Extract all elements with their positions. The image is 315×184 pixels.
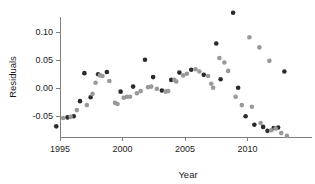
data-point bbox=[166, 89, 171, 94]
data-point bbox=[282, 69, 287, 74]
y-tick-label: 0.00 bbox=[35, 83, 53, 93]
x-tick-label: 2005 bbox=[175, 144, 195, 154]
data-points-layer bbox=[54, 10, 289, 138]
data-point bbox=[149, 84, 154, 89]
data-point bbox=[252, 122, 257, 127]
data-point bbox=[75, 108, 80, 113]
data-point bbox=[54, 124, 59, 129]
data-point bbox=[261, 125, 266, 130]
data-point bbox=[155, 87, 160, 92]
data-point bbox=[118, 89, 123, 94]
data-point bbox=[197, 69, 202, 74]
data-point bbox=[257, 45, 262, 50]
data-point bbox=[143, 57, 148, 62]
series-dark-points bbox=[54, 10, 287, 133]
data-point bbox=[226, 69, 231, 74]
data-point bbox=[267, 59, 272, 64]
data-point bbox=[214, 41, 219, 46]
data-point bbox=[93, 80, 98, 85]
data-point bbox=[247, 35, 252, 40]
data-point bbox=[236, 85, 241, 90]
data-point bbox=[138, 89, 143, 94]
y-tick-label: 0.05 bbox=[35, 55, 53, 65]
data-point bbox=[61, 116, 66, 121]
data-point bbox=[105, 70, 110, 75]
data-point bbox=[189, 68, 194, 73]
y-tick-group: -0.050.000.050.10 bbox=[32, 27, 60, 121]
data-point bbox=[131, 84, 136, 89]
data-point bbox=[240, 103, 245, 108]
data-point bbox=[68, 115, 73, 120]
x-axis-title: Year bbox=[178, 169, 197, 180]
x-tick-label: 2000 bbox=[112, 144, 132, 154]
y-axis-group: -0.050.000.050.10 bbox=[32, 17, 60, 137]
y-tick-label: 0.10 bbox=[35, 27, 53, 37]
x-tick-group: 1995200020052010 bbox=[50, 137, 258, 154]
data-point bbox=[258, 121, 263, 126]
data-point bbox=[217, 56, 222, 61]
data-point bbox=[209, 82, 214, 87]
data-point bbox=[78, 99, 83, 104]
y-tick-label: -0.05 bbox=[32, 111, 53, 121]
data-point bbox=[82, 71, 87, 76]
data-point bbox=[231, 10, 236, 15]
data-point bbox=[243, 114, 248, 119]
data-point bbox=[201, 73, 206, 78]
data-point bbox=[206, 74, 211, 79]
data-point bbox=[90, 92, 95, 97]
data-point bbox=[273, 126, 278, 131]
x-tick-label: 1995 bbox=[50, 144, 70, 154]
chart-figure: -0.050.000.050.10 1995200020052010 Year … bbox=[0, 0, 315, 184]
data-point bbox=[279, 131, 284, 136]
data-point bbox=[177, 70, 182, 75]
data-point bbox=[285, 134, 290, 139]
data-point bbox=[100, 74, 105, 79]
data-point bbox=[107, 79, 112, 84]
data-point bbox=[233, 94, 238, 99]
data-point bbox=[128, 94, 133, 99]
data-point bbox=[185, 71, 190, 76]
data-point bbox=[151, 75, 156, 80]
x-axis-group: 1995200020052010 bbox=[50, 137, 312, 154]
x-tick-label: 2010 bbox=[237, 144, 257, 154]
scatter-plot: -0.050.000.050.10 1995200020052010 Year … bbox=[0, 0, 315, 184]
data-point bbox=[250, 104, 255, 109]
data-point bbox=[218, 77, 223, 82]
y-axis-title: Residuals bbox=[7, 56, 18, 98]
data-point bbox=[174, 79, 179, 84]
data-point bbox=[85, 103, 90, 108]
data-point bbox=[115, 102, 120, 107]
data-point bbox=[211, 85, 216, 90]
data-point bbox=[222, 60, 227, 65]
data-point bbox=[269, 128, 274, 133]
